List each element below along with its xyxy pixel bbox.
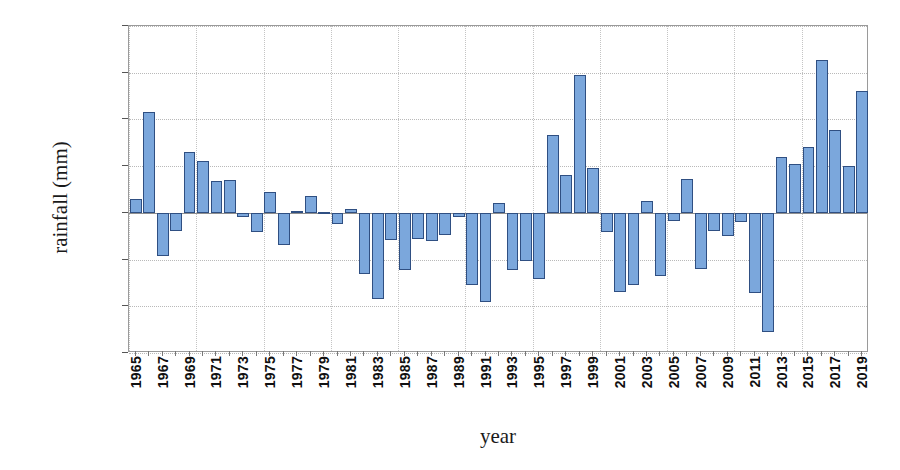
bar xyxy=(560,175,572,212)
bar xyxy=(614,213,626,292)
bar xyxy=(668,213,680,221)
bar xyxy=(480,213,492,302)
y-tick-mark xyxy=(122,259,128,260)
y-tick-mark xyxy=(122,25,128,26)
x-tick-mark xyxy=(283,351,284,356)
bar xyxy=(412,213,424,239)
rainfall-bar-chart: rainfall (mm) 400.0300.0200.0100.00.0-10… xyxy=(0,0,900,470)
x-tick-mark xyxy=(417,351,418,356)
bar xyxy=(278,213,290,245)
x-tick-label: 1965 xyxy=(128,356,144,388)
bar xyxy=(681,179,693,213)
x-tick-label: 2001 xyxy=(612,356,628,388)
x-tick-mark xyxy=(202,351,203,356)
bar xyxy=(264,192,276,213)
bar xyxy=(318,212,330,214)
x-tick-mark xyxy=(471,351,472,356)
x-tick-label: 1995 xyxy=(531,356,547,388)
bar xyxy=(587,168,599,212)
bar xyxy=(372,213,384,299)
bar xyxy=(237,213,249,217)
bar xyxy=(574,75,586,213)
x-tick-mark xyxy=(363,351,364,356)
x-tick-label: 1983 xyxy=(370,356,386,388)
x-tick-mark xyxy=(686,351,687,356)
x-tick-label: 1967 xyxy=(155,356,171,388)
x-tick-label: 1977 xyxy=(289,356,305,388)
x-tick-label: 1997 xyxy=(558,356,574,388)
bar xyxy=(762,213,774,332)
bar xyxy=(803,147,815,213)
bar xyxy=(170,213,182,231)
bar xyxy=(197,161,209,213)
bar xyxy=(251,213,263,233)
bar xyxy=(789,164,801,213)
y-tick-mark xyxy=(122,305,128,306)
x-tick-mark xyxy=(525,351,526,356)
bar xyxy=(816,60,828,213)
x-tick-label: 2019 xyxy=(854,356,870,388)
bar xyxy=(332,213,344,224)
x-tick-mark xyxy=(579,351,580,356)
bar xyxy=(493,203,505,213)
y-axis-title: rainfall (mm) xyxy=(48,68,73,328)
bar xyxy=(211,181,223,213)
x-tick-label: 1985 xyxy=(397,356,413,388)
x-tick-mark xyxy=(713,351,714,356)
x-tick-label: 1999 xyxy=(585,356,601,388)
bar xyxy=(399,213,411,270)
bar xyxy=(776,157,788,213)
bar xyxy=(843,166,855,213)
y-tick-mark xyxy=(122,72,128,73)
x-tick-mark xyxy=(821,351,822,356)
bar xyxy=(224,180,236,213)
x-tick-label: 2013 xyxy=(774,356,790,388)
x-tick-label: 1981 xyxy=(343,356,359,388)
bar xyxy=(547,135,559,213)
x-tick-mark xyxy=(633,351,634,356)
x-tick-label: 2009 xyxy=(720,356,736,388)
bar xyxy=(157,213,169,256)
x-axis-title: year xyxy=(128,424,868,449)
bar xyxy=(628,213,640,285)
bar xyxy=(130,199,142,213)
y-tick-mark xyxy=(122,118,128,119)
bar xyxy=(601,213,613,233)
bar xyxy=(291,211,303,213)
bar xyxy=(708,213,720,231)
x-tick-mark xyxy=(390,351,391,356)
x-tick-label: 2005 xyxy=(666,356,682,388)
x-tick-mark xyxy=(229,351,230,356)
bar xyxy=(722,213,734,236)
x-tick-label: 2007 xyxy=(693,356,709,388)
x-axis-ticks: 1965196719691971197319751977197919811983… xyxy=(128,356,868,418)
bar xyxy=(641,201,653,213)
x-tick-label: 1993 xyxy=(504,356,520,388)
x-tick-label: 1989 xyxy=(451,356,467,388)
x-tick-label: 1987 xyxy=(424,356,440,388)
bar xyxy=(439,213,451,235)
x-tick-mark xyxy=(606,351,607,356)
x-tick-label: 1975 xyxy=(262,356,278,388)
x-tick-mark xyxy=(310,351,311,356)
y-tick-mark xyxy=(122,165,128,166)
bar xyxy=(359,213,371,274)
bar xyxy=(507,213,519,270)
x-tick-mark xyxy=(659,351,660,356)
x-tick-mark xyxy=(444,351,445,356)
x-tick-mark xyxy=(256,351,257,356)
x-tick-mark xyxy=(175,351,176,356)
x-tick-mark xyxy=(848,351,849,356)
x-tick-label: 2017 xyxy=(827,356,843,388)
bar xyxy=(143,112,155,212)
x-tick-label: 1971 xyxy=(208,356,224,388)
bar xyxy=(655,213,667,276)
x-tick-label: 1969 xyxy=(182,356,198,388)
bar xyxy=(385,213,397,240)
bar xyxy=(345,209,357,213)
x-tick-mark xyxy=(498,351,499,356)
x-tick-label: 2015 xyxy=(800,356,816,388)
bar xyxy=(749,213,761,293)
x-tick-label: 2011 xyxy=(747,356,763,388)
x-tick-mark xyxy=(794,351,795,356)
